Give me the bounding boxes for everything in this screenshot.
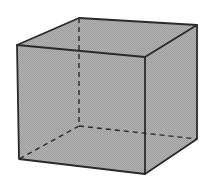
cube-diagram: Cube with hidden edges dashed: [0, 0, 216, 192]
cube-svg: [0, 0, 216, 192]
